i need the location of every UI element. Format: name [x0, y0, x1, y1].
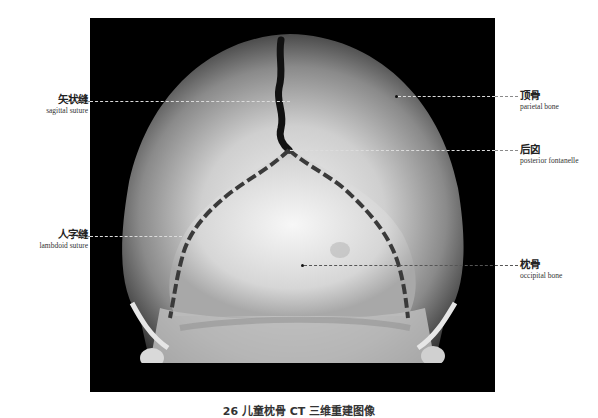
label-cn: 后囟: [520, 144, 579, 155]
leader-line-parietal: [495, 96, 518, 97]
skull-3d-render: [90, 18, 495, 392]
label-en: lambdoid suture: [39, 242, 88, 250]
label-posterior-fontanelle: 后囟 posterior fontanelle: [520, 144, 579, 164]
leader-line-lambdoid-inner: [90, 236, 182, 237]
label-lambdoid-suture: 人字缝 lambdoid suture: [39, 229, 88, 249]
leader-line-sagittal-inner: [90, 101, 290, 102]
label-en: sagittal suture: [46, 107, 88, 115]
label-parietal-bone: 顶骨 parietal bone: [520, 90, 559, 110]
label-cn: 人字缝: [39, 229, 88, 240]
figure-caption: 26 儿童枕骨 CT 三维重建图像: [0, 402, 598, 418]
label-en: parietal bone: [520, 103, 559, 111]
leader-line-fontanelle: [495, 150, 518, 151]
label-cn: 枕骨: [520, 259, 562, 270]
leader-line-parietal-inner: [398, 96, 495, 97]
leader-line-occipital: [304, 265, 518, 266]
label-sagittal-suture: 矢状缝 sagittal suture: [46, 94, 88, 114]
leader-line-fontanelle-inner: [290, 150, 495, 151]
label-en: posterior fontanelle: [520, 157, 579, 165]
label-cn: 矢状缝: [46, 94, 88, 105]
leader-line-sagittal: [66, 101, 90, 102]
label-occipital-bone: 枕骨 occipital bone: [520, 259, 562, 279]
label-cn: 顶骨: [520, 90, 559, 101]
leader-line-lambdoid: [66, 236, 90, 237]
label-en: occipital bone: [520, 272, 562, 280]
ct-image-frame: [90, 18, 495, 392]
